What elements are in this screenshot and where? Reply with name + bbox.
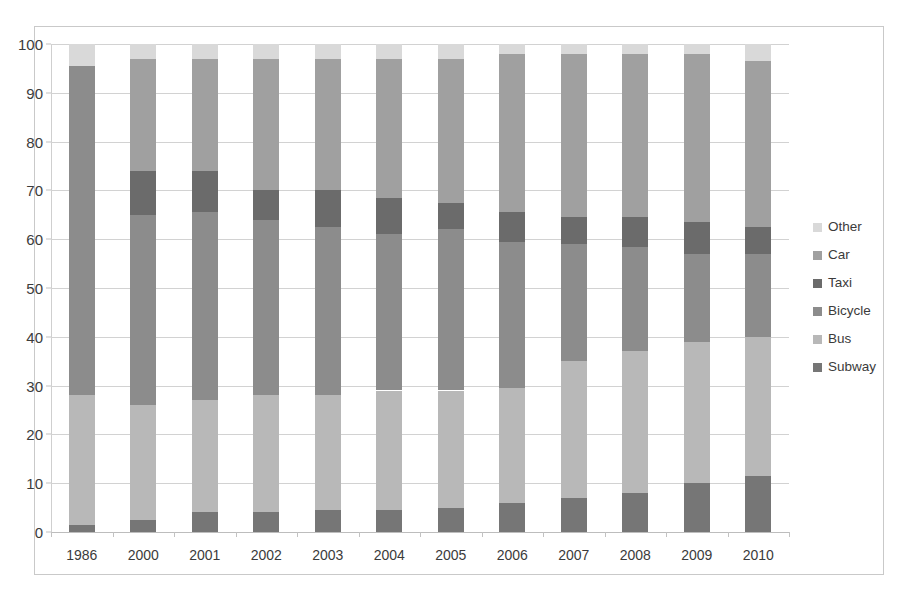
bar-segment-other[interactable]	[192, 44, 218, 59]
bar-segment-bicycle[interactable]	[130, 215, 156, 405]
bar-column[interactable]	[745, 44, 771, 532]
bar-segment-bus[interactable]	[438, 391, 464, 508]
bar-segment-bicycle[interactable]	[253, 220, 279, 396]
legend-item-subway[interactable]: Subway	[813, 353, 879, 381]
bar-segment-subway[interactable]	[684, 483, 710, 532]
bar-segment-bus[interactable]	[684, 342, 710, 484]
bar-segment-other[interactable]	[438, 44, 464, 59]
x-axis-tick-label: 2001	[189, 548, 220, 562]
bar-segment-taxi[interactable]	[684, 222, 710, 254]
bar-segment-other[interactable]	[253, 44, 279, 59]
bar-segment-bicycle[interactable]	[561, 244, 587, 361]
bar-column[interactable]	[253, 44, 279, 532]
bar-segment-bus[interactable]	[376, 391, 402, 511]
bar-segment-other[interactable]	[684, 44, 710, 54]
legend-item-taxi[interactable]: Taxi	[813, 269, 879, 297]
bar-segment-taxi[interactable]	[561, 217, 587, 244]
bar-segment-other[interactable]	[130, 44, 156, 59]
bar-column[interactable]	[499, 44, 525, 532]
bar-column[interactable]	[622, 44, 648, 532]
bar-column[interactable]	[438, 44, 464, 532]
bar-segment-subway[interactable]	[315, 510, 341, 532]
bar-segment-bus[interactable]	[192, 400, 218, 512]
bar-segment-subway[interactable]	[192, 512, 218, 532]
x-axis-tick-label: 2004	[374, 548, 405, 562]
x-axis-tick-mark	[297, 532, 298, 537]
bar-segment-bicycle[interactable]	[438, 229, 464, 390]
bar-segment-car[interactable]	[745, 61, 771, 227]
bar-segment-subway[interactable]	[745, 476, 771, 532]
bar-segment-bus[interactable]	[253, 395, 279, 512]
bar-segment-car[interactable]	[438, 59, 464, 203]
bar-segment-bicycle[interactable]	[684, 254, 710, 342]
bar-segment-bicycle[interactable]	[745, 254, 771, 337]
x-axis-tick-label: 2008	[620, 548, 651, 562]
bar-segment-bus[interactable]	[561, 361, 587, 498]
bar-segment-subway[interactable]	[499, 503, 525, 532]
bar-segment-car[interactable]	[561, 54, 587, 217]
bar-column[interactable]	[69, 44, 95, 532]
bar-segment-taxi[interactable]	[745, 227, 771, 254]
bar-column[interactable]	[192, 44, 218, 532]
bar-segment-bicycle[interactable]	[192, 212, 218, 400]
plot-area: 0102030405060708090100 19862000200120022…	[51, 44, 789, 532]
bar-segment-taxi[interactable]	[315, 190, 341, 227]
bar-column[interactable]	[315, 44, 341, 532]
bar-segment-other[interactable]	[69, 44, 95, 66]
legend-item-bus[interactable]: Bus	[813, 325, 879, 353]
bar-column[interactable]	[561, 44, 587, 532]
x-axis-tick-mark	[359, 532, 360, 537]
bar-segment-bicycle[interactable]	[622, 247, 648, 352]
legend-swatch-icon	[813, 363, 822, 372]
bar-segment-taxi[interactable]	[376, 198, 402, 235]
bar-segment-taxi[interactable]	[622, 217, 648, 246]
bar-segment-car[interactable]	[499, 54, 525, 213]
bar-segment-other[interactable]	[745, 44, 771, 61]
bar-segment-car[interactable]	[192, 59, 218, 171]
x-axis-tick-mark	[789, 532, 790, 537]
bar-segment-taxi[interactable]	[438, 203, 464, 230]
bar-segment-subway[interactable]	[561, 498, 587, 532]
bar-column[interactable]	[130, 44, 156, 532]
bar-segment-car[interactable]	[253, 59, 279, 191]
bar-segment-subway[interactable]	[69, 525, 95, 532]
bar-segment-car[interactable]	[315, 59, 341, 191]
bar-segment-bicycle[interactable]	[499, 242, 525, 388]
bar-segment-other[interactable]	[315, 44, 341, 59]
bar-segment-car[interactable]	[376, 59, 402, 198]
bar-segment-bus[interactable]	[745, 337, 771, 476]
bar-column[interactable]	[684, 44, 710, 532]
bar-segment-car[interactable]	[684, 54, 710, 222]
bar-segment-subway[interactable]	[622, 493, 648, 532]
bar-segment-car[interactable]	[622, 54, 648, 217]
legend-item-bicycle[interactable]: Bicycle	[813, 297, 879, 325]
bar-segment-subway[interactable]	[438, 508, 464, 532]
x-axis-tick-mark	[605, 532, 606, 537]
bar-segment-taxi[interactable]	[253, 190, 279, 219]
bars-layer	[51, 44, 789, 532]
legend-item-other[interactable]: Other	[813, 213, 879, 241]
bar-segment-bicycle[interactable]	[315, 227, 341, 395]
bar-segment-subway[interactable]	[376, 510, 402, 532]
bar-column[interactable]	[376, 44, 402, 532]
bar-segment-bicycle[interactable]	[376, 234, 402, 390]
bar-segment-bus[interactable]	[315, 395, 341, 510]
bar-segment-bicycle[interactable]	[69, 66, 95, 395]
legend-item-car[interactable]: Car	[813, 241, 879, 269]
bar-segment-subway[interactable]	[130, 520, 156, 532]
bar-segment-other[interactable]	[622, 44, 648, 54]
bar-segment-taxi[interactable]	[192, 171, 218, 212]
bar-segment-other[interactable]	[376, 44, 402, 59]
bar-segment-taxi[interactable]	[130, 171, 156, 215]
bar-segment-other[interactable]	[561, 44, 587, 54]
legend-swatch-icon	[813, 335, 822, 344]
bar-segment-bus[interactable]	[69, 395, 95, 524]
bar-segment-bus[interactable]	[130, 405, 156, 520]
bar-segment-taxi[interactable]	[499, 212, 525, 241]
bar-segment-bus[interactable]	[622, 351, 648, 493]
bar-stack	[130, 44, 156, 532]
bar-segment-other[interactable]	[499, 44, 525, 54]
bar-segment-subway[interactable]	[253, 512, 279, 532]
bar-segment-bus[interactable]	[499, 388, 525, 503]
bar-segment-car[interactable]	[130, 59, 156, 171]
